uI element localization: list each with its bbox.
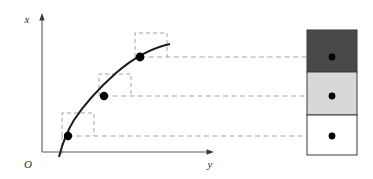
point-low [64,132,72,140]
sampled-curve [59,44,170,157]
swatch-white-dot [329,133,336,140]
origin-label: O [24,158,32,170]
grayscale-level-stack [307,30,357,155]
swatch-light-dot [329,93,336,100]
point-mid [100,92,108,100]
step-boxes-group [62,33,167,155]
swatch-dark-dot [329,54,336,61]
y-axis-label: y [207,158,213,170]
figure-container: x y O [0,0,373,179]
x-axis-label: x [24,13,30,25]
y-axis-arrowhead [207,149,215,154]
axes-group: x y O [24,13,214,170]
quantization-diagram: x y O [0,0,373,179]
point-high [136,53,145,62]
swatch-dark [307,30,357,72]
x-axis-arrowhead [39,13,44,21]
